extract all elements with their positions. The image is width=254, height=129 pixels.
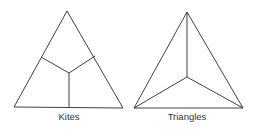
kites-figure <box>14 11 123 108</box>
triangles-label: Triangles <box>157 111 217 122</box>
kites-segment-right <box>69 56 95 73</box>
kites-label: Kites <box>44 111 94 122</box>
kites-outer-triangle <box>14 11 123 108</box>
triangles-outer-triangle <box>134 12 243 108</box>
triangles-figure <box>134 12 243 108</box>
triangles-segment-right <box>187 77 243 108</box>
diagram-canvas <box>0 0 254 129</box>
kites-segment-left <box>41 57 69 73</box>
triangles-segment-left <box>134 77 187 108</box>
